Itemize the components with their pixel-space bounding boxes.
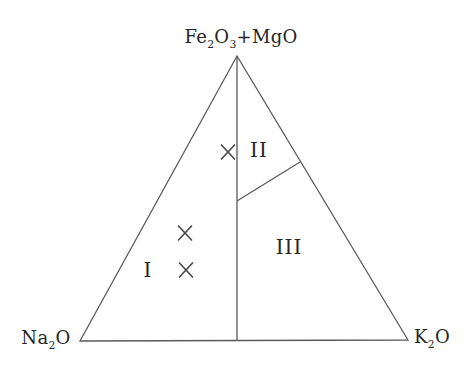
region-label-II: II — [250, 140, 268, 160]
region-label-I: I — [144, 260, 153, 280]
label-text: K — [414, 326, 428, 347]
sample-point-x-marker-3 — [180, 263, 193, 277]
region-II-III-divider — [237, 162, 300, 201]
subscript-text: 2 — [207, 38, 214, 51]
ternary-plot-canvas — [0, 0, 473, 372]
region-label-III: III — [276, 237, 303, 257]
sample-point-x-marker-2 — [179, 226, 192, 240]
label-text: O — [56, 327, 71, 348]
label-text: +MgO — [237, 26, 298, 47]
label-text: Na — [21, 327, 48, 348]
subscript-text: 2 — [428, 338, 435, 351]
label-text: O — [214, 26, 229, 47]
apex-label-top-fe2o3-mgo: Fe2O3+MgO — [184, 28, 297, 46]
apex-label-bottom-right-k2o: K2O — [414, 328, 450, 346]
apex-label-bottom-left-na2o: Na2O — [21, 329, 70, 347]
sample-point-x-marker-1 — [222, 145, 235, 159]
label-text: Fe — [184, 26, 207, 47]
ternary-diagram-figure: Fe2O3+MgO Na2O K2O I II III — [0, 0, 473, 372]
label-text: O — [435, 326, 450, 347]
triangle-outline — [80, 56, 408, 341]
